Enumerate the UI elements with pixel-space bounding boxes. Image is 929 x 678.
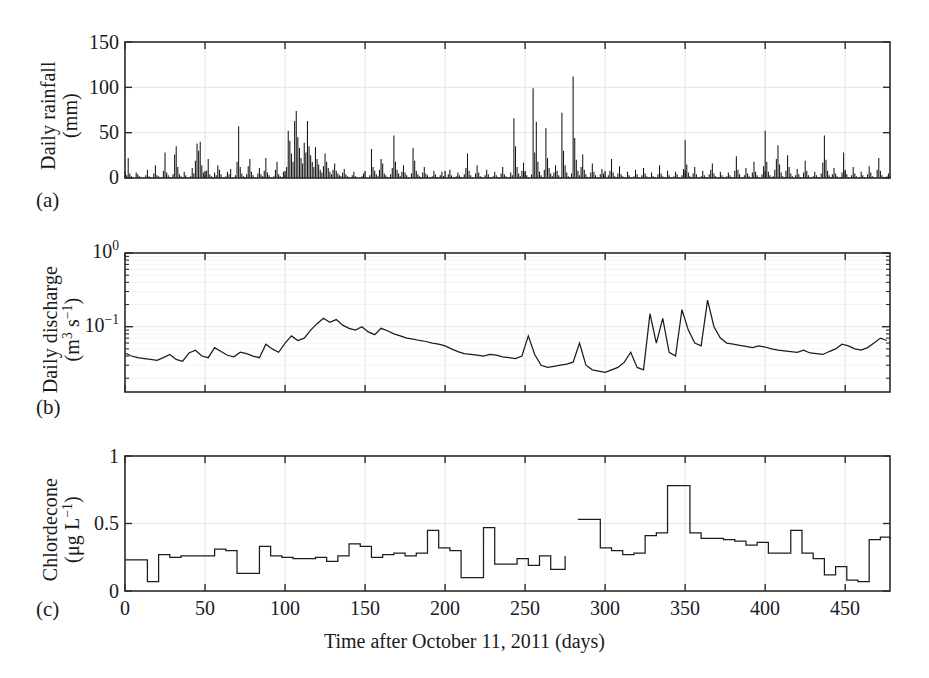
xtick-250: 250 xyxy=(505,597,545,620)
xtick-400: 400 xyxy=(745,597,785,620)
panel-a-rainfall: Daily rainfall (mm) 150 100 50 0 (a) xyxy=(0,0,929,230)
xtick-150: 150 xyxy=(345,597,385,620)
xtick-450: 450 xyxy=(825,597,865,620)
panel-c-chlordecone: Chlordecone (μg L−1) 1 0.5 0 0 50 100 15… xyxy=(0,445,929,678)
xtick-300: 300 xyxy=(585,597,625,620)
xtick-200: 200 xyxy=(425,597,465,620)
panel-b-plot xyxy=(0,230,929,445)
panel-c-letter: (c) xyxy=(36,597,59,622)
panel-a-letter: (a) xyxy=(36,188,59,213)
xtick-350: 350 xyxy=(665,597,705,620)
panel-b-letter: (b) xyxy=(36,395,61,420)
xtick-100: 100 xyxy=(265,597,305,620)
panel-a-plot xyxy=(0,0,929,230)
xtick-0: 0 xyxy=(105,597,145,620)
figure-container: Daily rainfall (mm) 150 100 50 0 (a) Dai… xyxy=(0,0,929,678)
x-axis-label: Time after October 11, 2011 (days) xyxy=(0,630,929,653)
panel-b-discharge: Daily discharge (m3 s−1) 100 10−1 (b) xyxy=(0,230,929,445)
xtick-50: 50 xyxy=(185,597,225,620)
